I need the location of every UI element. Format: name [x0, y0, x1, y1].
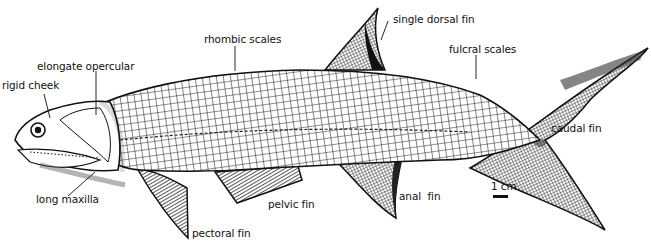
- label-long-maxilla: long maxilla: [36, 193, 99, 205]
- label-elongate-opercular: elongate opercular: [37, 60, 134, 72]
- label-fulcral-scales: fulcral scales: [449, 43, 516, 55]
- label-pectoral-fin: pectoral fin: [192, 227, 251, 239]
- label-scale-bar: 1 cm: [491, 180, 517, 192]
- label-anal-fin: anal fin: [399, 190, 441, 202]
- label-caudal-fin: caudal fin: [551, 122, 602, 134]
- fish-diagram: rigid cheek elongate opercular rhombic s…: [0, 0, 651, 244]
- label-pelvic-fin: pelvic fin: [268, 198, 315, 210]
- label-rigid-cheek: rigid cheek: [2, 79, 59, 91]
- scale-bar: [493, 195, 508, 198]
- body-shape: [80, 70, 540, 171]
- label-single-dorsal-fin: single dorsal fin: [393, 13, 475, 25]
- pectoral-fin-shape: [138, 170, 188, 238]
- label-rhombic-scales: rhombic scales: [204, 33, 281, 45]
